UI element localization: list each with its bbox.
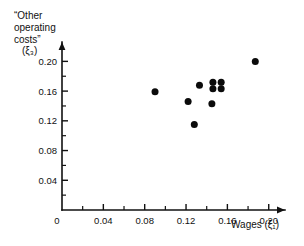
- data-point: [209, 79, 216, 86]
- x-tick-label: 0.16: [218, 215, 237, 226]
- scatter-plot-figure: “Other operating costs” (ξ₃) Wages (ξ₁) …: [0, 0, 304, 246]
- data-point: [252, 58, 259, 65]
- x-tick-label: 0.04: [94, 215, 113, 226]
- data-point: [208, 100, 215, 107]
- x-tick-label: 0.20: [259, 215, 278, 226]
- data-point: [185, 98, 192, 105]
- data-point: [191, 121, 198, 128]
- y-axis-title-line-1: “Other: [14, 10, 43, 21]
- data-point: [218, 85, 225, 92]
- y-axis-title-line-2: operating: [14, 22, 56, 33]
- y-tick-label: 0.20: [39, 56, 58, 67]
- x-tick-label: 0.12: [177, 215, 196, 226]
- x-tick-label: 0: [54, 215, 59, 226]
- y-tick-label: 0.08: [39, 145, 58, 156]
- y-tick-label: 0.16: [39, 86, 58, 97]
- y-axis-title-line-3: costs”: [14, 34, 41, 45]
- x-tick-label: 0.08: [135, 215, 154, 226]
- data-point: [218, 79, 225, 86]
- y-tick-label: 0.12: [39, 115, 58, 126]
- y-axis-title-line-4: (ξ₃): [22, 45, 37, 57]
- data-point: [152, 88, 159, 95]
- data-point: [196, 82, 203, 89]
- data-point: [209, 85, 216, 92]
- y-tick-label: 0.04: [39, 175, 58, 186]
